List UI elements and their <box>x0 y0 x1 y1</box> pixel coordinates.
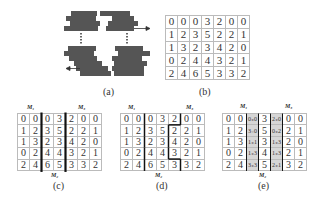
seam-overlay <box>0 0 322 203</box>
